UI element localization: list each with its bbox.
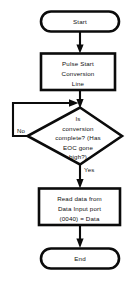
connector-read-to-end <box>76 225 83 248</box>
flowchart-canvas: Start Pulse Start Conversion Line Is con… <box>0 0 131 281</box>
node-decision-line-2: conversion <box>62 125 94 132</box>
node-start[interactable]: Start <box>41 12 119 32</box>
node-decision-line-3: complete? (Has <box>55 134 100 141</box>
connector-yes-to-read <box>76 165 83 189</box>
node-end-label: End <box>74 255 86 262</box>
node-decision-line-5: high?) <box>69 153 87 160</box>
node-read-line-2: Data Input port <box>58 205 101 212</box>
edge-label-no: No <box>17 127 26 134</box>
node-pulse-line-2: Conversion <box>62 70 95 77</box>
connector-start-to-pulse <box>76 31 83 54</box>
node-decision-line-1: Is <box>75 115 80 122</box>
node-decision-line-4: EOC gone <box>63 144 94 151</box>
node-pulse-start-conversion[interactable]: Pulse Start Conversion Line <box>41 54 115 91</box>
node-read-line-3: (0040) = Data <box>60 215 100 222</box>
node-read-data[interactable]: Read data from Data Input port (0040) = … <box>39 189 120 226</box>
node-pulse-line-1: Pulse Start <box>62 60 94 67</box>
node-end[interactable]: End <box>41 249 119 269</box>
edge-label-yes: Yes <box>84 166 94 173</box>
node-decision-conversion-complete[interactable]: Is conversion complete? (Has EOC gone hi… <box>28 108 123 165</box>
connector-pulse-to-decision <box>76 90 83 109</box>
node-pulse-line-3: Line <box>72 80 85 87</box>
node-read-line-1: Read data from <box>57 195 102 202</box>
node-start-label: Start <box>73 18 87 25</box>
